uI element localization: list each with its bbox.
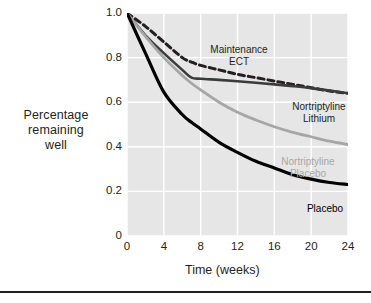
x-tick-label: 8	[189, 240, 213, 252]
series-label-maintenance-ect: Maintenance ECT	[196, 44, 282, 67]
x-tick-label: 24	[336, 240, 360, 252]
x-tick-label: 4	[152, 240, 176, 252]
x-axis-label: Time (weeks)	[185, 263, 365, 277]
footer-rule	[0, 291, 371, 293]
x-tick-label: 20	[299, 240, 323, 252]
chart-figure: Percentage remaining well Time (weeks) 0…	[0, 0, 371, 303]
y-axis-label-line-3: well	[6, 138, 106, 153]
y-axis-label-line-2: remaining	[6, 123, 106, 138]
y-tick-label: 0.6	[96, 95, 122, 107]
y-tick-label: 0.2	[96, 184, 122, 196]
y-axis-label-line-1: Percentage	[6, 108, 106, 123]
x-tick-label: 16	[262, 240, 286, 252]
series-label-placebo: Placebo	[290, 203, 360, 215]
y-tick-label: 0.4	[96, 140, 122, 152]
y-tick-label: 1.0	[96, 6, 122, 18]
series-label-nortriptyline-lithium: Nortriptyline Lithium	[272, 101, 366, 124]
y-axis-label: Percentage remaining well	[6, 108, 106, 153]
x-tick-label: 0	[115, 240, 139, 252]
x-tick-label: 12	[226, 240, 250, 252]
series-label-nortriptyline-placebo: Nortriptyline Placebo	[262, 156, 354, 179]
y-tick-label: 0.8	[96, 51, 122, 63]
